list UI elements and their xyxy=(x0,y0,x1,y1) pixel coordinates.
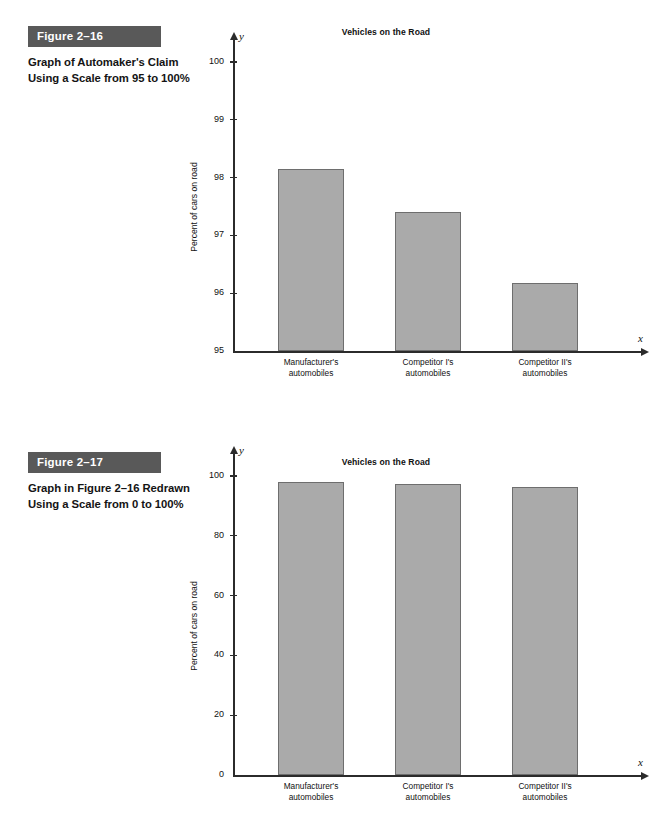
y-tick-label: 0 xyxy=(193,769,224,779)
y-tick-label: 20 xyxy=(193,709,224,719)
figure-block-2-16: Figure 2–16 Graph of Automaker's Claim U… xyxy=(28,26,193,86)
bar-2[interactable] xyxy=(512,283,578,351)
y-axis-arrow xyxy=(230,32,238,40)
category-label-line: Manufacturer's xyxy=(284,781,339,792)
y-tick xyxy=(230,61,237,62)
y-tick-label: 100 xyxy=(193,56,224,66)
y-axis-line xyxy=(233,454,235,775)
y-axis-letter: y xyxy=(239,444,244,456)
category-label-line: Competitor II's xyxy=(518,781,571,792)
category-label-0: Manufacturer'sautomobiles xyxy=(284,357,339,379)
category-label-1: Competitor I'sautomobiles xyxy=(403,357,454,379)
y-tick-label: 99 xyxy=(193,114,224,124)
category-label-line: Competitor I's xyxy=(403,357,454,368)
y-tick xyxy=(230,293,237,294)
category-label-line: automobiles xyxy=(403,792,454,803)
y-tick xyxy=(230,235,237,236)
bar-0[interactable] xyxy=(278,482,344,775)
bar-1[interactable] xyxy=(395,212,461,351)
category-label-1: Competitor I'sautomobiles xyxy=(403,781,454,803)
figure-block-2-17: Figure 2–17 Graph in Figure 2–16 Redrawn… xyxy=(28,452,193,512)
category-label-2: Competitor II'sautomobiles xyxy=(518,357,571,379)
y-tick xyxy=(230,475,237,476)
y-axis-line xyxy=(233,40,235,351)
x-axis-letter: x xyxy=(638,756,643,768)
category-label-line: automobiles xyxy=(518,792,571,803)
bar-1[interactable] xyxy=(395,484,461,775)
chart-title: Vehicles on the Road xyxy=(342,457,430,467)
category-label-line: Manufacturer's xyxy=(284,357,339,368)
category-label-2: Competitor II'sautomobiles xyxy=(518,781,571,803)
y-axis-title: Percent of cars on road xyxy=(189,162,199,251)
y-tick xyxy=(230,715,237,716)
x-axis-arrow xyxy=(641,772,649,780)
bar-2[interactable] xyxy=(512,487,578,775)
y-tick xyxy=(230,119,237,120)
bar-0[interactable] xyxy=(278,169,344,351)
x-axis-line xyxy=(233,351,641,353)
category-label-line: automobiles xyxy=(284,792,339,803)
category-label-line: automobiles xyxy=(284,368,339,379)
figure-caption-2-17: Graph in Figure 2–16 Redrawn Using a Sca… xyxy=(28,480,193,512)
y-axis-title: Percent of cars on road xyxy=(189,581,199,670)
y-tick-label: 100 xyxy=(193,470,224,480)
y-tick xyxy=(230,595,237,596)
category-label-line: automobiles xyxy=(403,368,454,379)
y-tick xyxy=(230,177,237,178)
category-label-line: automobiles xyxy=(518,368,571,379)
figure-caption-2-16: Graph of Automaker's Claim Using a Scale… xyxy=(28,54,193,86)
category-label-line: Competitor II's xyxy=(518,357,571,368)
x-axis-arrow xyxy=(641,348,649,356)
x-axis-line xyxy=(233,775,641,777)
x-axis-letter: x xyxy=(638,332,643,344)
figure-tag-2-16: Figure 2–16 xyxy=(28,26,161,47)
chart-title: Vehicles on the Road xyxy=(342,27,430,37)
y-tick xyxy=(230,535,237,536)
category-label-0: Manufacturer'sautomobiles xyxy=(284,781,339,803)
y-tick-label: 95 xyxy=(193,345,224,355)
y-axis-letter: y xyxy=(239,30,244,42)
y-tick xyxy=(230,655,237,656)
figure-tag-2-17: Figure 2–17 xyxy=(28,452,161,473)
y-tick-label: 96 xyxy=(193,287,224,297)
category-label-line: Competitor I's xyxy=(403,781,454,792)
y-tick-label: 80 xyxy=(193,530,224,540)
y-axis-arrow xyxy=(230,446,238,454)
